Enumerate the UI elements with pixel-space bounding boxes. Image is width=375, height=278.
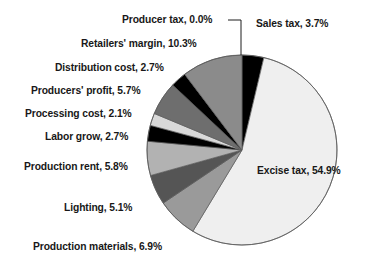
leader-line-producer-tax xyxy=(228,20,241,55)
slice-label-lighting: Lighting, 5.1% xyxy=(64,202,132,214)
slice-label-excise-tax: Excise tax, 54.9% xyxy=(257,165,341,177)
slice-label-labor-grow: Labor grow, 2.7% xyxy=(45,131,128,143)
leader-line-group xyxy=(228,20,241,55)
slice-label-sales-tax: Sales tax, 3.7% xyxy=(256,18,328,30)
pie-chart-figure: Producer tax, 0.0% Sales tax, 3.7% Retai… xyxy=(0,0,375,278)
slice-label-producers-profit: Producers' profit, 5.7% xyxy=(31,85,140,97)
slice-label-production-materials: Production materials, 6.9% xyxy=(33,241,162,253)
slice-label-production-rent: Production rent, 5.8% xyxy=(24,161,128,173)
slice-label-processing-cost: Processing cost, 2.1% xyxy=(25,108,132,120)
slice-label-retailers-margin: Retailers' margin, 10.3% xyxy=(81,38,197,50)
pie-slice-group xyxy=(147,55,337,245)
slice-label-producer-tax: Producer tax, 0.0% xyxy=(122,14,212,26)
slice-label-distribution-cost: Distribution cost, 2.7% xyxy=(55,62,164,74)
